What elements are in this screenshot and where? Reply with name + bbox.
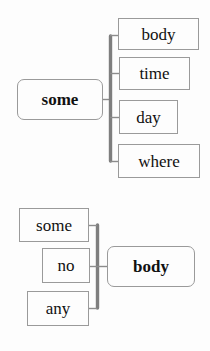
bottom-group-bracket — [89, 225, 107, 309]
node-label: body — [133, 258, 169, 275]
node-label: no — [58, 257, 75, 274]
node-label: any — [46, 300, 71, 317]
node-label: where — [138, 153, 180, 170]
top-group-bracket — [103, 36, 119, 162]
node-label: body — [142, 26, 176, 43]
node-label: some — [42, 91, 79, 108]
node-label: day — [136, 109, 161, 126]
node-label: some — [36, 217, 72, 234]
node-stem-body-bottom: body — [107, 246, 195, 287]
node-branch-no-bottom: no — [42, 248, 90, 283]
node-stem-some-top: some — [17, 79, 103, 120]
node-branch-time-top: time — [119, 57, 190, 90]
node-branch-some-bottom: some — [19, 208, 89, 242]
node-branch-day-top: day — [119, 100, 178, 134]
node-label: time — [139, 65, 169, 82]
node-branch-any-bottom: any — [27, 291, 89, 326]
morpheme-diagram: some body time day where some no any bod… — [0, 0, 210, 351]
node-branch-where-top: where — [118, 144, 200, 178]
node-branch-body-top: body — [118, 18, 199, 50]
